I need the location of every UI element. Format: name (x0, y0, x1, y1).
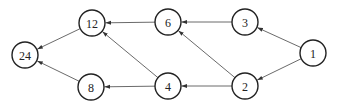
node-label: 24 (19, 49, 31, 63)
edge-4-to-8 (105, 86, 156, 87)
node-8: 8 (78, 74, 104, 100)
graph-svg: 2412631842 (0, 0, 338, 104)
edge-1-to-2 (257, 59, 301, 80)
edge-12-to-24 (37, 29, 80, 50)
node-24: 24 (12, 42, 38, 68)
node-label: 3 (242, 16, 248, 30)
node-12: 12 (79, 10, 105, 36)
node-label: 1 (310, 47, 316, 61)
node-label: 4 (165, 80, 171, 94)
node-3: 3 (232, 9, 258, 35)
node-4: 4 (155, 73, 181, 99)
node-label: 6 (165, 16, 171, 30)
edge-2-to-6 (178, 31, 235, 78)
edge-1-to-3 (257, 28, 301, 48)
node-1: 1 (300, 40, 326, 66)
edge-8-to-24 (37, 61, 79, 81)
edge-6-to-12 (106, 22, 156, 23)
edge-4-to-12 (102, 32, 158, 78)
divisor-graph-diagram: 2412631842 (0, 0, 338, 104)
nodes-layer: 2412631842 (12, 9, 326, 100)
node-label: 12 (86, 17, 98, 31)
node-2: 2 (232, 73, 258, 99)
node-label: 2 (242, 80, 248, 94)
node-label: 8 (88, 81, 94, 95)
node-6: 6 (155, 9, 181, 35)
